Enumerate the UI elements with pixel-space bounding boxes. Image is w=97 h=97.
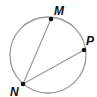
label-p: P: [86, 34, 95, 48]
label-m: M: [54, 4, 65, 18]
chord-nm: [23, 19, 51, 84]
inscribed-angle-diagram: M P N: [0, 0, 97, 97]
label-n: N: [10, 85, 19, 97]
chord-np: [23, 50, 84, 84]
point-n: [21, 82, 26, 87]
point-m: [49, 17, 54, 22]
point-p: [82, 48, 87, 53]
